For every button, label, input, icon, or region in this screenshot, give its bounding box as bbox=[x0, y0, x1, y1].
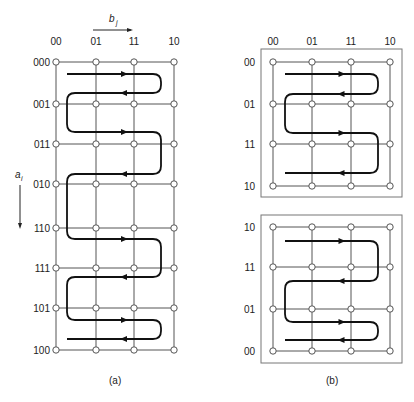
grid-node bbox=[171, 141, 177, 147]
grid-node bbox=[131, 59, 137, 65]
right-arrowhead-icon bbox=[339, 130, 346, 136]
right-arrowhead-icon bbox=[121, 129, 128, 135]
grid-node bbox=[93, 225, 99, 231]
panel-a-caption: (a) bbox=[109, 375, 121, 386]
grid-node bbox=[387, 59, 393, 65]
row-label: 10 bbox=[244, 222, 256, 233]
grid-node bbox=[131, 181, 137, 187]
left-arrowhead-icon bbox=[120, 336, 127, 342]
panel-b: 000111100001111010110100 bbox=[244, 36, 402, 363]
left-arrowhead-icon bbox=[338, 91, 345, 97]
grid-node bbox=[309, 264, 315, 270]
column-label: 10 bbox=[384, 36, 396, 47]
karnaugh-serpentine-figure: b j a i 00000101101011011110110000011110… bbox=[0, 0, 414, 402]
grid-node bbox=[309, 59, 315, 65]
grid-node bbox=[93, 181, 99, 187]
grid-node bbox=[309, 141, 315, 147]
grid-node bbox=[270, 306, 276, 312]
grid-node bbox=[348, 183, 354, 189]
panel-b-top-serpentine-path bbox=[285, 74, 378, 173]
row-label: 11 bbox=[245, 262, 256, 273]
grid-node bbox=[53, 265, 59, 271]
left-arrowhead-icon bbox=[120, 171, 127, 177]
row-label: 011 bbox=[34, 139, 50, 150]
grid-node bbox=[53, 141, 59, 147]
panel-a-grid: 00000101101011011110110000011110 bbox=[33, 36, 180, 356]
row-axis-a: a i bbox=[15, 169, 23, 229]
grid-node bbox=[309, 306, 315, 312]
panel-b-top-box bbox=[261, 49, 402, 197]
grid-node bbox=[270, 101, 276, 107]
grid-node bbox=[93, 101, 99, 107]
grid-node bbox=[171, 101, 177, 107]
right-arrowhead-icon bbox=[121, 71, 128, 77]
left-arrowhead-icon bbox=[338, 278, 345, 284]
grid-node bbox=[171, 347, 177, 353]
grid-node bbox=[93, 141, 99, 147]
row-label: 100 bbox=[33, 345, 50, 356]
grid-node bbox=[53, 59, 59, 65]
column-label: 01 bbox=[90, 36, 102, 47]
grid-node bbox=[270, 348, 276, 354]
grid-node bbox=[270, 141, 276, 147]
grid-node bbox=[53, 181, 59, 187]
grid-node bbox=[131, 225, 137, 231]
grid-node bbox=[270, 264, 276, 270]
grid-node bbox=[348, 101, 354, 107]
row-label: 01 bbox=[244, 99, 256, 110]
column-axis-subscript: j bbox=[115, 19, 118, 27]
grid-node bbox=[131, 347, 137, 353]
grid-node bbox=[387, 183, 393, 189]
grid-node bbox=[348, 141, 354, 147]
column-label: 10 bbox=[168, 36, 180, 47]
grid-node bbox=[309, 101, 315, 107]
grid-node bbox=[93, 347, 99, 353]
panel-a: 00000101101011011110110000011110 bbox=[33, 36, 180, 356]
right-arrowhead-icon bbox=[339, 238, 346, 244]
right-arrowhead-icon bbox=[121, 236, 128, 242]
row-label: 010 bbox=[33, 179, 50, 190]
column-label: 11 bbox=[346, 36, 357, 47]
grid-node bbox=[93, 265, 99, 271]
grid-node bbox=[131, 305, 137, 311]
column-label: 00 bbox=[267, 36, 279, 47]
row-label: 101 bbox=[33, 303, 50, 314]
grid-node bbox=[309, 348, 315, 354]
grid-node bbox=[270, 59, 276, 65]
grid-node bbox=[309, 183, 315, 189]
grid-node bbox=[131, 265, 137, 271]
grid-node bbox=[387, 141, 393, 147]
column-axis-label: b bbox=[109, 13, 115, 24]
grid-node bbox=[387, 348, 393, 354]
grid-node bbox=[387, 224, 393, 230]
grid-node bbox=[131, 101, 137, 107]
arrowhead-icon bbox=[127, 28, 133, 32]
grid-node bbox=[270, 224, 276, 230]
left-arrowhead-icon bbox=[120, 274, 127, 280]
right-arrowhead-icon bbox=[339, 71, 346, 77]
column-label: 11 bbox=[129, 36, 140, 47]
grid-node bbox=[270, 183, 276, 189]
row-label: 00 bbox=[244, 346, 256, 357]
row-label: 000 bbox=[33, 57, 50, 68]
grid-node bbox=[171, 265, 177, 271]
grid-node bbox=[348, 264, 354, 270]
row-label: 01 bbox=[244, 304, 256, 315]
left-arrowhead-icon bbox=[120, 90, 127, 96]
grid-node bbox=[171, 225, 177, 231]
left-arrowhead-icon bbox=[338, 170, 345, 176]
grid-node bbox=[309, 224, 315, 230]
grid-node bbox=[53, 347, 59, 353]
grid-node bbox=[387, 264, 393, 270]
row-label: 10 bbox=[244, 181, 256, 192]
panel-b-caption: (b) bbox=[326, 375, 338, 386]
grid-node bbox=[53, 305, 59, 311]
grid-node bbox=[387, 101, 393, 107]
grid-node bbox=[53, 225, 59, 231]
grid-node bbox=[53, 101, 59, 107]
column-axis-b: b j bbox=[93, 13, 133, 32]
grid-node bbox=[93, 305, 99, 311]
grid-node bbox=[348, 306, 354, 312]
row-label: 00 bbox=[244, 57, 256, 68]
right-arrowhead-icon bbox=[339, 319, 346, 325]
